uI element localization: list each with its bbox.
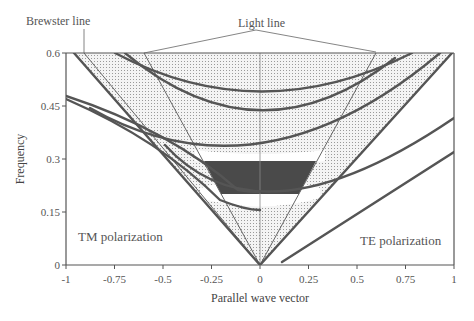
y-tick-label: 0.15 (41, 206, 61, 218)
chart: -1 -0.75 -0.5 -0.25 0 0.25 0.5 0.75 1 0 … (0, 0, 474, 321)
light-line-leaders (144, 30, 376, 53)
x-tick-label: 0 (257, 273, 263, 285)
x-tick-label: -0.5 (154, 273, 172, 285)
brewster-line-label: Brewster line (26, 14, 90, 28)
x-tick-labels: -1 -0.75 -0.5 -0.25 0 0.25 0.5 0.75 1 (61, 273, 456, 285)
x-tick-label: 1 (451, 273, 457, 285)
y-axis-title: Frequency (13, 134, 27, 185)
light-line-label: Light line (238, 16, 285, 30)
x-axis-title: Parallel wave vector (211, 291, 309, 305)
te-polarization-label: TE polarization (360, 233, 442, 248)
x-tick-label: -0.25 (200, 273, 223, 285)
x-tick-label: 0.75 (396, 273, 416, 285)
tm-polarization-label: TM polarization (78, 229, 163, 244)
x-tick-label: 0.25 (299, 273, 319, 285)
y-tick-label: 0.3 (46, 153, 60, 165)
y-tick-label: 0 (55, 259, 61, 271)
y-tick-label: 0.45 (41, 100, 61, 112)
y-tick-labels: 0 0.15 0.3 0.45 0.6 (41, 47, 61, 271)
x-tick-label: -1 (61, 273, 70, 285)
x-tick-label: 0.5 (350, 273, 364, 285)
x-tick-label: -0.75 (103, 273, 126, 285)
y-tick-label: 0.6 (46, 47, 60, 59)
